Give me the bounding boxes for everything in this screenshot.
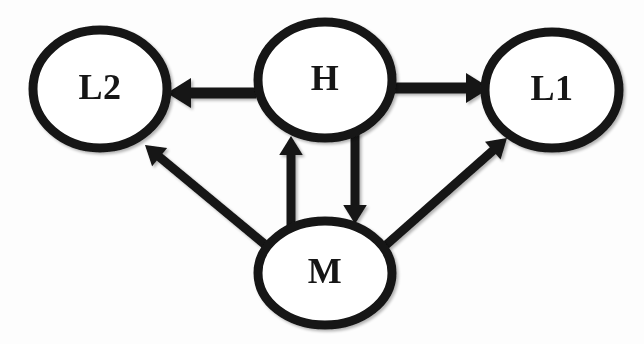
arrowhead-icon bbox=[279, 136, 303, 155]
node-m[interactable]: M bbox=[258, 221, 392, 325]
diagram-graph: L2HL1M bbox=[0, 0, 644, 344]
node-label-l2: L2 bbox=[78, 67, 121, 107]
node-label-l1: L1 bbox=[530, 68, 573, 108]
diagram-canvas: L2HL1M bbox=[0, 0, 644, 344]
edge-shaft bbox=[158, 156, 268, 247]
node-h[interactable]: H bbox=[258, 22, 392, 138]
edge-m-to-l2 bbox=[145, 145, 268, 247]
node-label-h: H bbox=[311, 58, 340, 98]
edge-h-to-l1 bbox=[394, 73, 490, 103]
nodes-layer: L2HL1M bbox=[33, 22, 619, 325]
edge-m-to-l1 bbox=[386, 138, 507, 245]
edge-shaft bbox=[386, 149, 494, 245]
edge-h-to-l2 bbox=[167, 78, 256, 108]
node-label-m: M bbox=[308, 251, 342, 291]
edge-m-to-h bbox=[279, 136, 303, 228]
node-l2[interactable]: L2 bbox=[33, 30, 167, 148]
node-l1[interactable]: L1 bbox=[485, 32, 619, 148]
edge-h-to-m bbox=[343, 133, 367, 224]
